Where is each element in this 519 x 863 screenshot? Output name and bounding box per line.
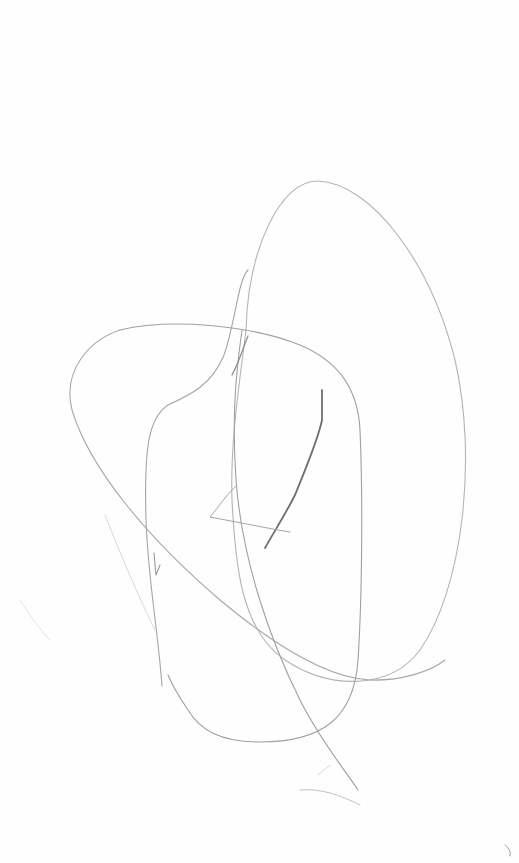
center-curve-stroke [234, 330, 358, 790]
paper-canvas [0, 0, 519, 863]
wide-loop-stroke [70, 330, 445, 680]
corner-mark-stroke [505, 845, 510, 856]
bottom-flick-2-stroke [318, 765, 330, 775]
left-hook-stroke [154, 553, 160, 575]
left-vertical-stroke [146, 270, 248, 686]
dark-stroke-stroke [265, 390, 322, 548]
bottom-flick-stroke [300, 790, 360, 805]
faint-diagonal-stroke [105, 515, 155, 630]
faint-corner-stroke [20, 600, 50, 640]
wide-loop-top-stroke [120, 324, 362, 742]
pencil-drawing [0, 0, 519, 863]
tall-oval-stroke [232, 181, 466, 681]
